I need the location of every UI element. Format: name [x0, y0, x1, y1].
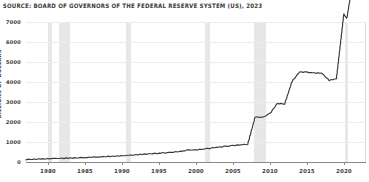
- xaxis-tick-label: 1990: [107, 168, 137, 174]
- xaxis-tick-label: 2015: [292, 168, 322, 174]
- yaxis-tick-label: 1000: [1, 139, 21, 145]
- xaxis-tick: [122, 162, 123, 165]
- series-line-total-assets: [26, 22, 366, 162]
- yaxis-tick-label: 3000: [1, 99, 21, 105]
- xaxis-tick: [196, 162, 197, 165]
- xaxis-tick: [85, 162, 86, 165]
- xaxis-tick: [233, 162, 234, 165]
- xaxis-tick: [307, 162, 308, 165]
- yaxis-tick-label: 2000: [1, 119, 21, 125]
- yaxis-tick-label: 4000: [1, 79, 21, 85]
- xaxis-tick-label: 1995: [144, 168, 174, 174]
- plot-area: [26, 22, 366, 162]
- xaxis-tick-label: 1980: [33, 168, 63, 174]
- xaxis-tick-label: 2010: [255, 168, 285, 174]
- yaxis-tick-label: 6000: [1, 39, 21, 45]
- yaxis-title: BILLIONS OF DOLLARS: [0, 49, 2, 118]
- xaxis-tick-label: 2000: [181, 168, 211, 174]
- xaxis-tick-label: 2020: [329, 168, 359, 174]
- yaxis-tick-label: 0: [1, 159, 21, 165]
- xaxis-tick: [159, 162, 160, 165]
- chart-page: SOURCE: BOARD OF GOVERNORS OF THE FEDERA…: [0, 0, 369, 182]
- xaxis-tick: [48, 162, 49, 165]
- yaxis-tick-label: 7000: [1, 19, 21, 25]
- xaxis-tick-label: 2005: [218, 168, 248, 174]
- source-note: SOURCE: BOARD OF GOVERNORS OF THE FEDERA…: [3, 2, 263, 9]
- xaxis-tick: [344, 162, 345, 165]
- xaxis-tick-label: 1985: [70, 168, 100, 174]
- xaxis-tick: [270, 162, 271, 165]
- yaxis-tick-label: 5000: [1, 59, 21, 65]
